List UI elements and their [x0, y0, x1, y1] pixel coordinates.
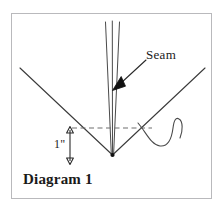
right-fold-arm [113, 68, 206, 155]
fabric-edge-wave [138, 118, 182, 146]
dimension-label: 1" [54, 138, 65, 150]
dimension-arrow [67, 127, 74, 165]
fold-vertex-point [110, 153, 114, 157]
diagram-title: Diagram 1 [23, 172, 93, 187]
seam-line-left [106, 22, 112, 154]
diagram-page: Seam 1" Diagram 1 [0, 0, 224, 215]
seam-label: Seam [146, 48, 176, 61]
seam-leader-line [121, 60, 146, 83]
seam-arrowhead [113, 77, 126, 91]
left-fold-arm [20, 68, 113, 155]
